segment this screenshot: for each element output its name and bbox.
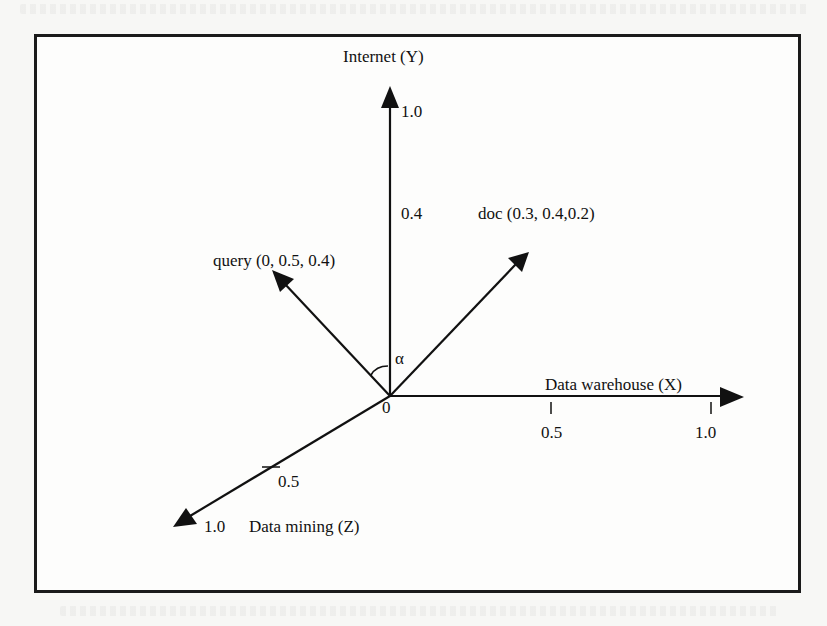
doc-vector-label: doc (0.3, 0.4,0.2) bbox=[478, 205, 595, 222]
doc-vector bbox=[390, 252, 529, 396]
z-tick-label-0.5: 0.5 bbox=[278, 473, 299, 490]
origin-label: 0 bbox=[382, 399, 391, 416]
x-tick-label-0.5: 0.5 bbox=[541, 424, 562, 441]
x-axis-label: Data warehouse (X) bbox=[545, 376, 682, 393]
z-tick-label-1.0: 1.0 bbox=[204, 518, 225, 535]
query-vector-label: query (0, 0.5, 0.4) bbox=[213, 252, 335, 269]
z-axis-label: Data mining (Z) bbox=[249, 518, 359, 535]
y-axis-arrowhead-icon bbox=[381, 86, 399, 108]
z-axis-arrowhead-icon bbox=[173, 508, 197, 527]
angle-alpha-label: α bbox=[395, 350, 404, 367]
y-axis-label: Internet (Y) bbox=[343, 48, 424, 65]
angle-arc-icon bbox=[371, 366, 388, 375]
x-axis-arrowhead-icon bbox=[720, 387, 744, 407]
x-tick-label-1.0: 1.0 bbox=[695, 424, 716, 441]
y-tick-label-0.4: 0.4 bbox=[401, 205, 422, 222]
query-vector bbox=[272, 270, 390, 396]
z-axis bbox=[173, 396, 390, 527]
y-tick-label-1.0: 1.0 bbox=[401, 103, 422, 120]
vector-space-diagram bbox=[0, 0, 827, 626]
